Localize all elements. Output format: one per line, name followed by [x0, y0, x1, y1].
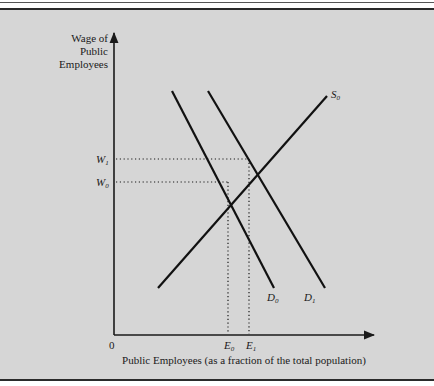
e0-label: E0 — [223, 339, 235, 353]
y-axis-label-line1: Wage of — [71, 32, 108, 44]
d1-label: D1 — [303, 291, 315, 305]
y-axis-label-line2: Public — [80, 45, 108, 57]
s0-label: S0 — [331, 88, 341, 102]
demand-curve-d0 — [172, 91, 274, 288]
d0-label: D0 — [266, 291, 279, 305]
y-axis-label-line3: Employees — [59, 58, 108, 70]
w1-label: W1 — [96, 153, 109, 167]
w0-label: W0 — [96, 176, 109, 190]
origin-label: 0 — [109, 339, 115, 351]
x-axis-label: Public Employees (as a fraction of the t… — [122, 354, 366, 367]
figure-frame: Wage of Public Employees S0 D0 D1 W1 W0 … — [0, 0, 434, 386]
supply-demand-diagram: Wage of Public Employees S0 D0 D1 W1 W0 … — [0, 0, 434, 386]
demand-curve-d1 — [208, 91, 325, 288]
e1-label: E1 — [245, 339, 256, 353]
supply-curve-s0 — [158, 96, 327, 288]
